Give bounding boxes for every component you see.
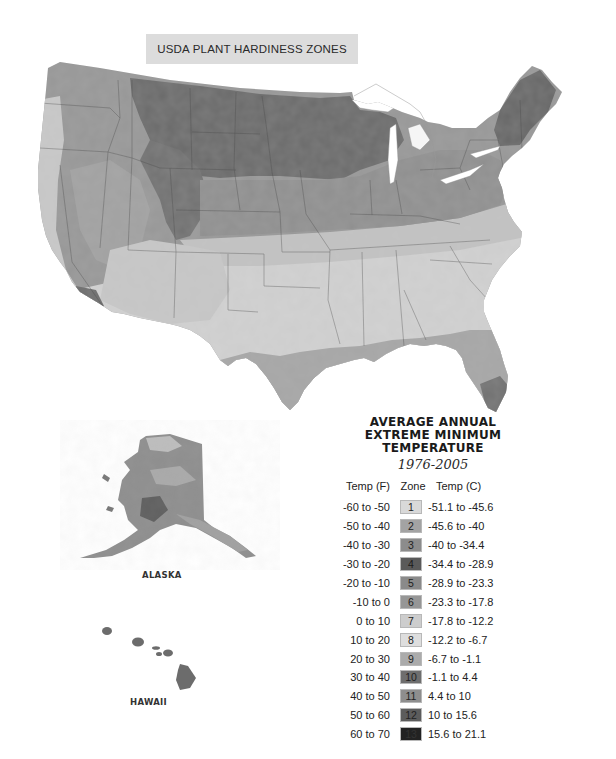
temp-f: -60 to -50 [338, 501, 390, 513]
zone-swatch: 5 [400, 576, 422, 590]
legend-row: 20 to 309-6.7 to -1.1 [338, 649, 528, 668]
zone-swatch: 13 [400, 727, 422, 741]
temp-c: -28.9 to -23.3 [428, 577, 493, 589]
zone-swatch: 8 [400, 633, 422, 647]
temp-c: 15.6 to 21.1 [428, 728, 486, 740]
temp-c: -51.1 to -45.6 [428, 501, 493, 513]
temp-c: -17.8 to -12.2 [428, 615, 493, 627]
legend-row: -50 to -402-45.6 to -40 [338, 517, 528, 536]
legend-row: 10 to 208-12.2 to -6.7 [338, 630, 528, 649]
legend-row: -20 to -105-28.9 to -23.3 [338, 574, 528, 593]
temp-f: -30 to -20 [338, 558, 390, 570]
temp-c: -6.7 to -1.1 [428, 653, 481, 665]
zone-swatch: 2 [400, 519, 422, 533]
zone-swatch: 9 [400, 652, 422, 666]
temp-f: 40 to 50 [338, 690, 390, 702]
temp-c: -23.3 to -17.8 [428, 596, 493, 608]
temp-f: 20 to 30 [338, 653, 390, 665]
legend-row: -40 to -303-40 to -34.4 [338, 536, 528, 555]
temp-c: -12.2 to -6.7 [428, 634, 487, 646]
temp-f: -50 to -40 [338, 520, 390, 532]
alaska-label: ALASKA [142, 570, 182, 580]
legend-row: -10 to 06-23.3 to -17.8 [338, 592, 528, 611]
legend-row: 60 to 701315.6 to 21.1 [338, 725, 528, 744]
temp-c: -45.6 to -40 [428, 520, 484, 532]
temp-f: 0 to 10 [338, 615, 390, 627]
legend-years: 1976-2005 [338, 457, 528, 472]
zone-swatch: 4 [400, 557, 422, 571]
legend-rows: -60 to -501-51.1 to -45.6 -50 to -402-45… [338, 498, 528, 744]
zone-swatch: 7 [400, 614, 422, 628]
header-temp-c: Temp (C) [436, 480, 481, 492]
temp-f: -20 to -10 [338, 577, 390, 589]
zone-swatch: 10 [400, 670, 422, 684]
zone-swatch: 1 [400, 500, 422, 514]
temp-f: -40 to -30 [338, 539, 390, 551]
temp-f: 50 to 60 [338, 709, 390, 721]
legend-row: 40 to 50114.4 to 10 [338, 687, 528, 706]
zone-swatch: 11 [400, 689, 422, 703]
header-temp-f: Temp (F) [338, 480, 390, 492]
temp-f: 60 to 70 [338, 728, 390, 740]
contiguous-us [30, 55, 590, 425]
legend-row: 50 to 601210 to 15.6 [338, 706, 528, 725]
temp-f: 30 to 40 [338, 671, 390, 683]
legend-row: -30 to -204-34.4 to -28.9 [338, 555, 528, 574]
hawaii-inset [102, 627, 196, 690]
legend-row: -60 to -501-51.1 to -45.6 [338, 498, 528, 517]
temp-c: 4.4 to 10 [428, 690, 471, 702]
hawaii-label: HAWAII [130, 697, 167, 707]
legend-row: 30 to 4010-1.1 to 4.4 [338, 668, 528, 687]
legend-title-line3: TEMPERATURE [338, 442, 528, 455]
temp-f: 10 to 20 [338, 634, 390, 646]
temp-c: -40 to -34.4 [428, 539, 484, 551]
zone-swatch: 3 [400, 538, 422, 552]
legend-header: Temp (F) Zone Temp (C) [338, 480, 528, 492]
alaska-inset [60, 420, 280, 570]
zone-swatch: 12 [400, 708, 422, 722]
header-zone: Zone [396, 480, 430, 492]
temp-c: -34.4 to -28.9 [428, 558, 493, 570]
zone-swatch: 6 [400, 595, 422, 609]
temp-c: -1.1 to 4.4 [428, 671, 478, 683]
temp-c: 10 to 15.6 [428, 709, 477, 721]
legend-row: 0 to 107-17.8 to -12.2 [338, 611, 528, 630]
legend: AVERAGE ANNUAL EXTREME MINIMUM TEMPERATU… [338, 416, 528, 744]
temp-f: -10 to 0 [338, 596, 390, 608]
